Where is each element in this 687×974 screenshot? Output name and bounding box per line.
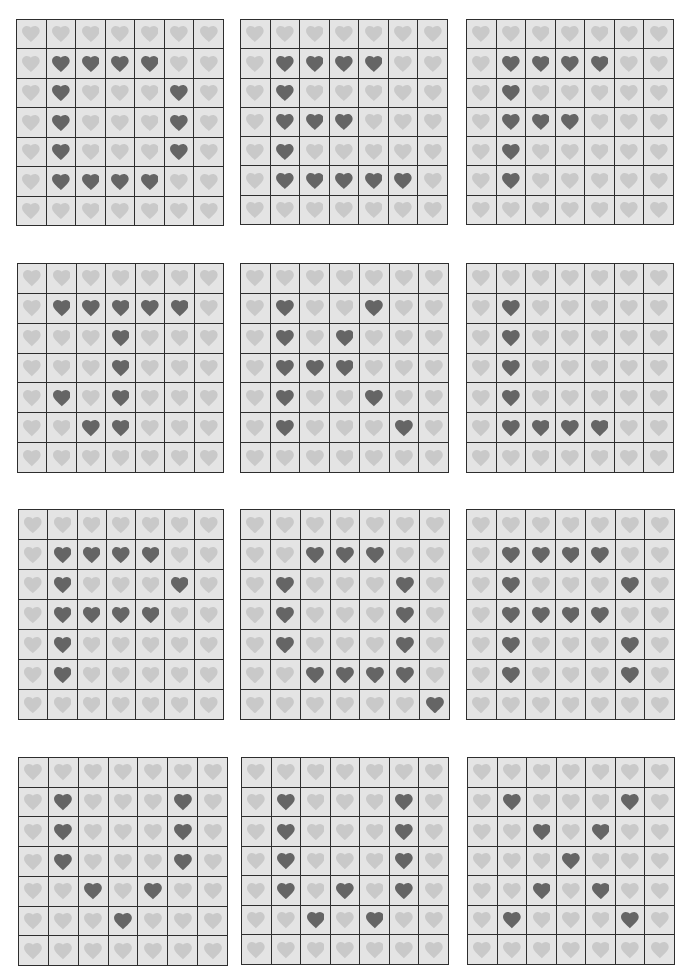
faded-heart-icon [23, 419, 41, 437]
grid-cell [19, 570, 47, 599]
grid-cell [18, 383, 46, 412]
grid-cell [138, 907, 167, 936]
grid-cell [419, 876, 448, 905]
faded-heart-icon [307, 823, 325, 841]
grid-cell [419, 264, 448, 293]
faded-heart-icon [472, 636, 490, 654]
grid-cell [330, 294, 359, 323]
filled-heart-icon [502, 55, 520, 73]
grid-cell [136, 690, 164, 719]
filled-heart-icon [395, 852, 413, 870]
grid-cell [165, 443, 193, 472]
grid-cell [390, 690, 419, 719]
grid-cell [557, 906, 586, 935]
grid-cell [497, 600, 526, 629]
faded-heart-icon [24, 763, 42, 781]
grid-cell [17, 79, 46, 107]
grid-cell [330, 137, 359, 165]
faded-heart-icon [650, 269, 668, 287]
filled-heart-icon [335, 55, 353, 73]
faded-heart-icon [23, 269, 41, 287]
grid-cell [644, 294, 673, 323]
grid-cell [556, 630, 585, 659]
grid-cell [300, 294, 329, 323]
faded-heart-icon [200, 173, 218, 191]
grid-cell [301, 630, 330, 659]
grid-cell [389, 79, 418, 107]
filled-heart-icon [276, 576, 294, 594]
grid-cell [76, 167, 105, 195]
grid-cell [109, 817, 138, 846]
grid-cell [497, 570, 526, 599]
faded-heart-icon [112, 576, 130, 594]
filled-heart-icon [111, 173, 129, 191]
grid-cell [271, 79, 300, 107]
faded-heart-icon [171, 359, 189, 377]
grid-cell [526, 354, 555, 383]
faded-heart-icon [111, 25, 129, 43]
faded-heart-icon [621, 606, 639, 624]
heart-grid-letter-f [466, 19, 674, 225]
grid-cell [645, 510, 674, 539]
filled-heart-icon [395, 823, 413, 841]
faded-heart-icon [472, 576, 490, 594]
grid-cell [556, 108, 585, 136]
filled-heart-icon [276, 389, 294, 407]
grid-cell [331, 630, 360, 659]
faded-heart-icon [82, 202, 100, 220]
grid-cell [330, 49, 359, 77]
grid-cell [165, 20, 194, 48]
filled-heart-icon [82, 299, 100, 317]
filled-heart-icon [335, 172, 353, 190]
grid-cell [165, 600, 193, 629]
grid-cell [165, 630, 193, 659]
grid-cell [390, 413, 419, 442]
faded-heart-icon [620, 269, 638, 287]
faded-heart-icon [472, 546, 490, 564]
grid-cell [616, 540, 645, 569]
grid-cell [271, 540, 300, 569]
faded-heart-icon [472, 201, 490, 219]
grid-cell [195, 383, 223, 412]
grid-cell [585, 354, 614, 383]
grid-cell [165, 79, 194, 107]
grid-cell [168, 877, 197, 906]
grid-cell [360, 413, 389, 442]
faded-heart-icon [472, 516, 490, 534]
faded-heart-icon [561, 329, 579, 347]
faded-heart-icon [651, 763, 669, 781]
filled-heart-icon [502, 576, 520, 594]
faded-heart-icon [533, 852, 551, 870]
grid-cell [19, 817, 48, 846]
faded-heart-icon [591, 299, 609, 317]
grid-cell [498, 817, 527, 846]
grid-cell [272, 847, 301, 876]
heart-grid-letter-u [18, 757, 228, 966]
grid-cell [47, 20, 76, 48]
grid-cell [49, 847, 78, 876]
faded-heart-icon [426, 666, 444, 684]
faded-heart-icon [620, 299, 638, 317]
grid-cell [556, 264, 585, 293]
grid-cell [49, 817, 78, 846]
filled-heart-icon [365, 299, 383, 317]
grid-cell [138, 877, 167, 906]
filled-heart-icon [336, 882, 354, 900]
grid-cell [195, 264, 223, 293]
faded-heart-icon [22, 143, 40, 161]
grid-cell [300, 137, 329, 165]
grid-cell [331, 600, 360, 629]
heart-grid-letter-w [241, 757, 449, 965]
grid-cell [586, 660, 615, 689]
faded-heart-icon [24, 882, 42, 900]
grid-cell [467, 324, 496, 353]
faded-heart-icon [472, 84, 490, 102]
grid-cell [644, 79, 673, 107]
filled-heart-icon [54, 793, 72, 811]
grid-cell [330, 79, 359, 107]
faded-heart-icon [532, 84, 550, 102]
faded-heart-icon [396, 546, 414, 564]
faded-heart-icon [170, 55, 188, 73]
faded-heart-icon [84, 912, 102, 930]
faded-heart-icon [424, 84, 442, 102]
